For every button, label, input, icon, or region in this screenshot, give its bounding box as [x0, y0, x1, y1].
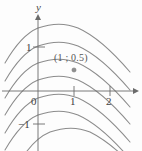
math-figure: y 0 1 2 1 −1 (1 ; 0.5) — [0, 0, 142, 151]
x-axis-arrowhead — [133, 88, 139, 94]
y-tick-label-1: 1 — [26, 42, 32, 53]
x-tick-label-1: 1 — [70, 96, 76, 107]
marked-point-dot — [72, 68, 76, 72]
x-tick-label-2: 2 — [106, 96, 112, 107]
curve-2 — [5, 42, 130, 90]
curve-1 — [5, 24, 130, 72]
y-axis-arrowhead — [35, 14, 41, 20]
y-tick-label-neg1: −1 — [18, 119, 30, 130]
curve-family — [5, 24, 135, 151]
curve-7 — [18, 128, 135, 151]
y-axis-label: y — [36, 2, 41, 13]
x-tick-label-0: 0 — [31, 96, 37, 107]
marked-point-label: (1 ; 0.5) — [54, 53, 88, 63]
